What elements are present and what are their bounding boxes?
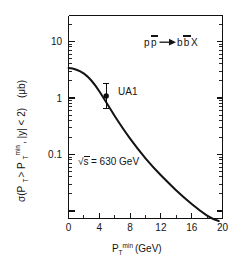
energy-label-group: √s = 630 GeV <box>78 156 139 167</box>
reaction-label-group: p p b b X <box>144 36 198 48</box>
x-axis-title-sub: T <box>119 249 123 256</box>
y-axis-title-gt: > P <box>16 162 27 178</box>
xtick-label-0: 0 <box>66 222 72 233</box>
y-minor-ticks <box>69 24 223 194</box>
y-axis-title-sub-b: T <box>22 156 29 160</box>
plot-canvas: p p b b X UA1 √s = 630 GeV 10 1 0.1 0 4 … <box>0 0 249 265</box>
reaction-bbar: b <box>184 37 190 48</box>
ua1-label: UA1 <box>118 86 138 97</box>
reaction-arrow-head <box>169 39 176 46</box>
reaction-pbar: p <box>151 37 157 48</box>
xtick-label-20: 20 <box>217 222 229 233</box>
y-axis-title-sub-a: T <box>22 179 29 183</box>
y-major-ticks <box>69 42 223 212</box>
figure-root: p p b b X UA1 √s = 630 GeV 10 1 0.1 0 4 … <box>0 0 249 265</box>
y-axis-title-rapidity: , |y| < 2) <box>16 108 27 144</box>
ytick-label-1: 1 <box>56 93 62 104</box>
reaction-X: X <box>191 37 198 48</box>
sqrt-s-value: = 630 GeV <box>91 156 139 167</box>
y-axis-title-sup-b: min <box>14 145 21 156</box>
y-axis-title-unit: (μb) <box>16 80 27 98</box>
x-axis-title: P T min (GeV) <box>112 242 162 257</box>
x-axis-title-unit: (GeV) <box>135 243 162 254</box>
xtick-label-4: 4 <box>97 222 103 233</box>
xtick-label-8: 8 <box>127 222 133 233</box>
xtick-label-12: 12 <box>155 222 167 233</box>
reaction-p: p <box>144 37 150 48</box>
y-axis-title-sigma: σ(P <box>16 185 27 202</box>
y-axis-title: σ(P T > P T min , |y| < 2) (μb) <box>14 80 29 202</box>
ytick-label-0p1: 0.1 <box>48 149 62 160</box>
x-axis-title-sup: min <box>123 242 134 249</box>
theory-curve <box>69 68 219 221</box>
ytick-label-10: 10 <box>51 36 63 47</box>
sqrt-s-symbol: √s <box>78 156 89 167</box>
ua1-marker <box>104 93 109 98</box>
reaction-b: b <box>177 37 183 48</box>
xtick-label-16: 16 <box>186 222 198 233</box>
